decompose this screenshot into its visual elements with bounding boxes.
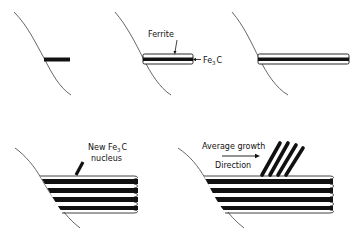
- new-nucleus-label: New Fe3C: [88, 143, 128, 153]
- panel-1: [14, 12, 71, 95]
- panel-5: Average growth Direction: [178, 142, 334, 228]
- arrowhead-icon: [255, 154, 260, 158]
- ferrite-label: Ferrite: [148, 30, 174, 39]
- fe3c-nucleus: [44, 58, 70, 62]
- panel-2: Ferrite Fe3C: [115, 12, 223, 95]
- panel-4: New Fe3C nucleus: [15, 143, 138, 228]
- lamellae-stack: [30, 176, 138, 212]
- grain-boundary: [115, 12, 171, 95]
- nucleus-label: nucleus: [91, 154, 122, 163]
- ferrite-pointer: [175, 40, 177, 52]
- new-fe3c-nucleus: [76, 162, 83, 175]
- pearlite-growth-diagram: Ferrite Fe3C: [0, 0, 352, 236]
- fe3c-plate: [258, 58, 349, 62]
- grain-boundary: [14, 12, 71, 95]
- panel-3: [232, 12, 349, 95]
- fe3c-plate: [143, 58, 193, 62]
- lamellae-stack: [195, 176, 333, 212]
- fe3c-label: Fe3C: [203, 56, 223, 66]
- growth-label: Average growth: [202, 142, 265, 151]
- grain-boundary: [232, 12, 288, 95]
- direction-label: Direction: [215, 161, 251, 170]
- new-colony-lamellae: [262, 143, 303, 175]
